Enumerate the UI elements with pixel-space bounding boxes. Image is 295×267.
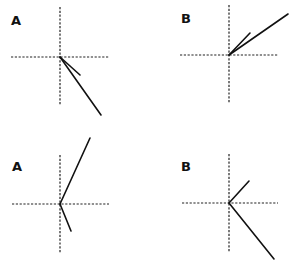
vector-long <box>60 138 90 204</box>
panel-label: A <box>12 159 22 174</box>
panel-top-right: B <box>180 5 288 103</box>
vector-short <box>60 204 71 231</box>
panel-label: A <box>11 13 21 28</box>
panel-label: B <box>181 11 191 26</box>
vector-diagram: A B A B <box>0 0 295 267</box>
panel-label: B <box>181 159 191 174</box>
panel-top-left: A <box>11 7 109 115</box>
vector-long <box>229 14 288 55</box>
vector-short <box>229 33 250 55</box>
vector-long <box>60 57 101 115</box>
panel-bottom-left: A <box>12 138 109 253</box>
panel-bottom-right: B <box>181 154 278 259</box>
vector-long <box>229 203 274 259</box>
vector-short <box>229 181 249 203</box>
